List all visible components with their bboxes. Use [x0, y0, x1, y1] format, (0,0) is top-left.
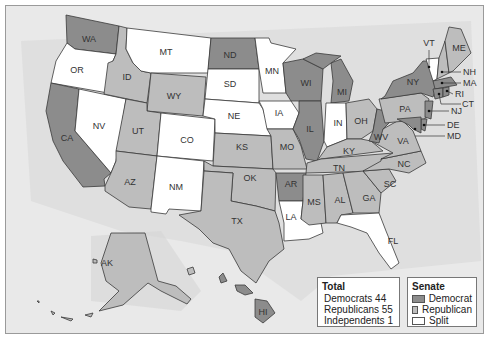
map-frame: WA OR CA NV ID MT WY UT AZ CO NM ND SD N… — [5, 5, 484, 334]
svg-text:LA: LA — [285, 212, 296, 222]
legend-total-title: Total — [322, 281, 395, 292]
republican-swatch-icon — [412, 306, 418, 314]
svg-text:WA: WA — [82, 34, 96, 44]
svg-text:MI: MI — [337, 87, 347, 97]
svg-text:NH: NH — [463, 67, 476, 77]
legend-senate-title: Senate — [412, 281, 472, 292]
svg-text:SC: SC — [384, 179, 397, 189]
svg-text:KS: KS — [236, 142, 248, 152]
total-independents: Independents 1 — [322, 315, 395, 326]
svg-text:GA: GA — [362, 193, 375, 203]
total-democrats: Democrats 44 — [322, 293, 395, 304]
legend-item-split: Split — [412, 315, 472, 326]
svg-text:AZ: AZ — [124, 177, 136, 187]
svg-text:AR: AR — [285, 179, 298, 189]
svg-text:AK: AK — [101, 258, 113, 268]
svg-text:NM: NM — [169, 182, 183, 192]
svg-text:KY: KY — [343, 146, 355, 156]
svg-text:MS: MS — [307, 197, 321, 207]
democrat-swatch-icon — [412, 295, 425, 303]
svg-text:MN: MN — [265, 66, 279, 76]
svg-text:SD: SD — [224, 79, 237, 89]
svg-text:TN: TN — [333, 163, 345, 173]
svg-text:OK: OK — [243, 173, 256, 183]
svg-text:UT: UT — [132, 126, 144, 136]
svg-text:MD: MD — [447, 131, 461, 141]
svg-text:AL: AL — [334, 195, 345, 205]
svg-text:IA: IA — [275, 108, 284, 118]
svg-text:ID: ID — [123, 72, 133, 82]
legend-label-republican: Republican — [422, 304, 472, 315]
split-swatch-icon — [412, 317, 425, 325]
svg-text:IN: IN — [334, 118, 343, 128]
svg-text:DE: DE — [447, 120, 460, 130]
svg-text:CA: CA — [61, 133, 74, 143]
svg-text:WV: WV — [374, 132, 389, 142]
svg-text:MA: MA — [463, 78, 477, 88]
svg-text:HI: HI — [259, 307, 268, 317]
legend-senate: Senate Democrat Republican Split — [407, 277, 477, 327]
svg-text:CO: CO — [180, 135, 194, 145]
svg-text:WI: WI — [301, 78, 312, 88]
state-ri[interactable] — [443, 87, 449, 97]
legend-item-republican: Republican — [412, 304, 472, 315]
svg-text:NY: NY — [407, 77, 420, 87]
svg-text:VA: VA — [397, 136, 408, 146]
svg-text:NV: NV — [93, 121, 106, 131]
svg-text:FL: FL — [388, 236, 399, 246]
svg-text:NJ: NJ — [451, 106, 462, 116]
svg-text:ND: ND — [224, 50, 237, 60]
legend-total: Total Democrats 44 Republicans 55 Indepe… — [317, 277, 400, 327]
svg-text:IL: IL — [306, 124, 314, 134]
svg-text:CT: CT — [462, 99, 474, 109]
svg-text:RI: RI — [455, 89, 464, 99]
legend-item-democrat: Democrat — [412, 293, 472, 304]
svg-text:PA: PA — [399, 104, 410, 114]
svg-text:ME: ME — [452, 43, 466, 53]
svg-text:OR: OR — [70, 65, 84, 75]
svg-text:MT: MT — [160, 47, 173, 57]
svg-text:MO: MO — [280, 142, 295, 152]
svg-text:OH: OH — [354, 116, 368, 126]
svg-text:VT: VT — [423, 38, 435, 48]
svg-text:NE: NE — [228, 111, 241, 121]
svg-text:TX: TX — [231, 216, 243, 226]
legend-label-democrat: Democrat — [429, 293, 472, 304]
svg-text:WY: WY — [167, 91, 182, 101]
svg-text:NC: NC — [398, 159, 411, 169]
total-republicans: Republicans 55 — [322, 304, 395, 315]
legend-label-split: Split — [429, 315, 448, 326]
